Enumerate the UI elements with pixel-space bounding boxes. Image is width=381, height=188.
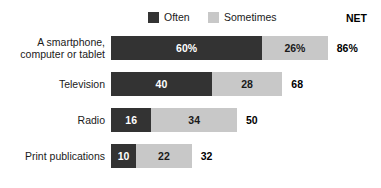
bar-segment-often: 40 [111, 72, 212, 96]
bar-segment-sometimes: 22 [136, 144, 191, 168]
net-value: 50 [246, 115, 258, 126]
stacked-bar: 1022 [111, 144, 192, 168]
legend-label-often: Often [164, 12, 190, 23]
category-label: Radio [0, 114, 105, 126]
chart-rows: A smartphone, computer or tablet60%26%86… [0, 36, 381, 180]
chart-row: Television402868 [0, 72, 381, 96]
bar-value-often: 40 [156, 79, 168, 90]
bar-segment-sometimes: 26% [262, 36, 328, 60]
stacked-bar: 4028 [111, 72, 282, 96]
bar-segment-often: 60% [111, 36, 262, 60]
bar-value-often: 16 [125, 115, 137, 126]
chart-row: Print publications102232 [0, 144, 381, 168]
bar-value-often: 60% [176, 43, 197, 54]
legend-item-often: Often [148, 12, 190, 23]
bar-segment-often: 10 [111, 144, 136, 168]
bar-segment-sometimes: 34 [151, 108, 237, 132]
legend-swatch-sometimes [208, 12, 219, 23]
net-value: 86% [337, 43, 358, 54]
bar-value-sometimes: 34 [188, 115, 200, 126]
bar-value-sometimes: 26% [284, 43, 305, 54]
net-value: 32 [201, 151, 213, 162]
bar-value-sometimes: 28 [241, 79, 253, 90]
bar-value-sometimes: 22 [158, 151, 170, 162]
legend-label-sometimes: Sometimes [224, 12, 277, 23]
bar-segment-often: 16 [111, 108, 151, 132]
legend-item-sometimes: Sometimes [208, 12, 277, 23]
bar-segment-sometimes: 28 [212, 72, 283, 96]
stacked-bar: 60%26% [111, 36, 328, 60]
stacked-bar-chart: Often Sometimes NET A smartphone, comput… [0, 0, 381, 188]
category-label: Print publications [0, 150, 105, 162]
legend-swatch-often [148, 12, 159, 23]
category-label: Television [0, 78, 105, 90]
chart-legend: Often Sometimes NET [0, 12, 381, 28]
bar-value-often: 10 [118, 151, 130, 162]
stacked-bar: 1634 [111, 108, 237, 132]
chart-row: A smartphone, computer or tablet60%26%86… [0, 36, 381, 60]
net-column-header: NET [346, 12, 367, 24]
category-label: A smartphone, computer or tablet [0, 36, 105, 60]
chart-row: Radio163450 [0, 108, 381, 132]
net-value: 68 [291, 79, 303, 90]
